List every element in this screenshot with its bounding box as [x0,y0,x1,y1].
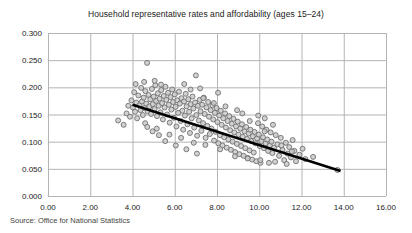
svg-text:6.00: 6.00 [167,203,183,212]
svg-text:14.00: 14.00 [334,203,355,212]
svg-text:0.100: 0.100 [22,138,43,147]
svg-text:10.00: 10.00 [249,203,270,212]
svg-text:16.00: 16.00 [376,203,397,212]
source-note: Source: Office for National Statistics [10,216,130,226]
scatter-plot: 0.002.004.006.008.0010.0012.0014.0016.00… [0,0,412,233]
svg-text:12.00: 12.00 [291,203,312,212]
y-axis-tick-labels: 0.0000.0500.1000.1500.2000.2500.300 [22,29,43,201]
scatter-points [116,60,340,172]
svg-text:0.300: 0.300 [22,29,43,38]
svg-text:0.250: 0.250 [22,56,43,65]
svg-text:0.150: 0.150 [22,111,43,120]
svg-text:0.200: 0.200 [22,83,43,92]
svg-text:0.00: 0.00 [40,203,56,212]
chart-figure: Household representative rates and affor… [0,0,412,233]
svg-text:0.000: 0.000 [22,192,43,201]
svg-text:0.050: 0.050 [22,165,43,174]
x-axis-tick-labels: 0.002.004.006.008.0010.0012.0014.0016.00 [40,203,396,212]
svg-text:2.00: 2.00 [82,203,98,212]
svg-text:8.00: 8.00 [209,203,225,212]
svg-text:4.00: 4.00 [125,203,141,212]
